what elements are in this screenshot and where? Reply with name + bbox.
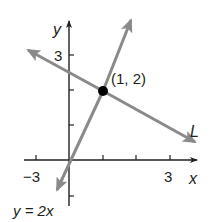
x-axis-label: x: [188, 170, 198, 187]
x-tick-label-neg3: −3: [23, 168, 40, 185]
line-y-equals-2x-label: y = 2x: [12, 202, 54, 219]
point-label: (1, 2): [111, 70, 146, 87]
x-ticks: [36, 155, 170, 160]
line-L: [28, 50, 103, 91]
y-axis-label: y: [52, 21, 62, 38]
line-L-label: L: [190, 123, 199, 140]
intersection-point: [98, 86, 108, 96]
x-tick-label-3: 3: [164, 168, 172, 185]
line-L: [103, 91, 195, 142]
line-y-equals-2x: [57, 91, 103, 190]
y-tick-label-3: 3: [54, 47, 62, 64]
coordinate-plane: (1, 2) L y = 2x y x −3 3 3: [0, 0, 212, 222]
